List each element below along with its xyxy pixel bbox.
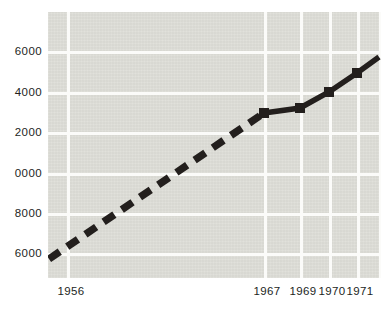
series-layer <box>48 12 381 278</box>
series-observed-line <box>264 57 379 113</box>
data-point-marker <box>352 68 362 78</box>
data-point-marker <box>259 108 269 118</box>
y-axis-tick-label: 8000 <box>0 207 42 219</box>
y-axis-tick-label: 2000 <box>0 126 42 138</box>
y-axis-tick-label: 6000 <box>0 247 42 259</box>
x-axis-tick-label: 1971 <box>346 285 373 297</box>
x-axis-tick-label: 1956 <box>57 285 84 297</box>
chart-figure: 6000 4000 2000 0000 8000 6000 1956 1967 … <box>0 0 384 314</box>
data-point-marker <box>295 103 305 113</box>
y-axis-tick-label: 0000 <box>0 167 42 179</box>
data-point-marker <box>324 87 334 97</box>
y-axis-tick-label: 4000 <box>0 86 42 98</box>
x-axis-tick-label: 1967 <box>253 285 280 297</box>
series-projected-line <box>49 113 264 259</box>
plot-area <box>48 12 381 278</box>
x-axis-tick-label: 1969 <box>289 285 316 297</box>
x-axis-tick-label: 1970 <box>318 285 345 297</box>
plot-inner <box>48 12 381 278</box>
y-axis-tick-label: 6000 <box>0 45 42 57</box>
